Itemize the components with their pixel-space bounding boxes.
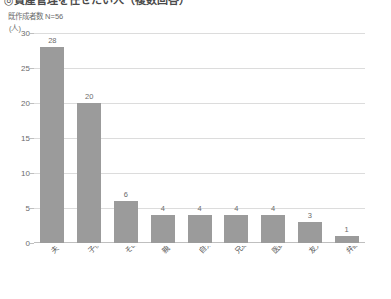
gridline	[34, 33, 365, 34]
bar-value-label: 28	[48, 36, 56, 45]
y-axis-tick-label: 20	[21, 99, 30, 108]
bar-value-label: 1	[345, 225, 349, 234]
y-axis-tick-mark	[30, 243, 34, 244]
page-title-text: ◎資産管理を任せたい人（複数回答）	[4, 0, 190, 7]
bar	[114, 201, 138, 243]
bar	[188, 215, 212, 243]
x-axis-category-label: 自分	[196, 246, 214, 256]
bar	[40, 47, 64, 243]
bar-value-label: 4	[234, 204, 238, 213]
x-axis-category-label: 兄弟・姉妹	[232, 246, 265, 256]
sample-size-note: 既作成者数 N=56	[8, 10, 63, 21]
bar-value-label: 6	[124, 190, 128, 199]
y-axis-tick-label: 25	[21, 64, 30, 73]
bar	[298, 222, 322, 243]
bar	[224, 215, 248, 243]
x-axis-category-label: 子供	[85, 246, 103, 256]
bar	[261, 215, 285, 243]
x-axis-category-label: 医師	[269, 246, 287, 256]
bar-value-label: 4	[271, 204, 275, 213]
y-axis-unit-label: (人)	[9, 22, 21, 33]
bar	[335, 236, 359, 243]
page-title-clipped: ◎資産管理を任せたい人（複数回答）	[0, 0, 391, 7]
x-axis-category-label: 夫・妻	[48, 246, 71, 256]
gridline	[34, 68, 365, 69]
bar-value-label: 3	[308, 211, 312, 220]
x-axis-category-label: その他	[122, 246, 145, 256]
x-axis-category-label: 友人	[306, 246, 324, 256]
y-axis: 051015202530	[0, 33, 30, 244]
y-axis-tick-label: 10	[21, 169, 30, 178]
x-axis-category-label: 弁護士等の専門家	[343, 246, 390, 256]
bar	[77, 103, 101, 243]
x-axis-category-label: 親	[159, 246, 172, 256]
bar-value-label: 4	[197, 204, 201, 213]
y-axis-tick-label: 15	[21, 134, 30, 143]
x-axis-labels: 夫・妻子供その他親自分兄弟・姉妹医師友人弁護士等の専門家	[0, 246, 391, 299]
bar-value-label: 20	[85, 92, 93, 101]
bar	[151, 215, 175, 243]
bar-value-label: 4	[161, 204, 165, 213]
y-axis-tick-label: 30	[21, 29, 30, 38]
chart-plot-area: 28206444431	[34, 33, 365, 243]
